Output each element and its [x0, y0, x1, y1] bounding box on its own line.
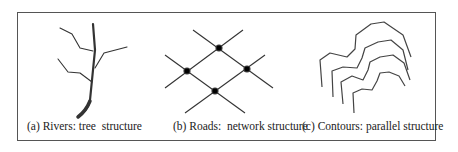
caption-rivers: (a) Rivers: tree structure [27, 120, 142, 132]
road-network-diagram [165, 30, 273, 113]
contour-lines-diagram [320, 22, 411, 113]
caption-roads: (b) Roads: network structure [173, 120, 308, 132]
caption-contours: (c) Contours: parallel structure [302, 120, 443, 132]
river-tree-diagram [58, 24, 127, 117]
